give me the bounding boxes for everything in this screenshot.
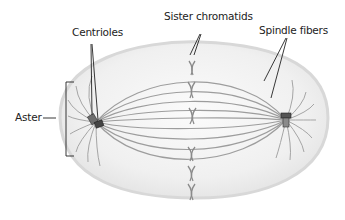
mitosis-diagram: Centrioles Sister chromatids Spindle fib… (0, 0, 345, 220)
label-sister-chromatids: Sister chromatids (164, 10, 253, 22)
label-centrioles: Centrioles (72, 26, 123, 38)
label-aster: Aster (15, 111, 42, 123)
label-spindle-fibers: Spindle fibers (259, 24, 328, 36)
